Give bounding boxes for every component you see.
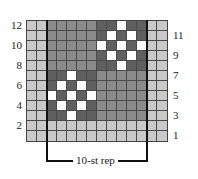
row-label-6: 6 [6,80,22,90]
chart-cell-light-gray [147,121,157,131]
chart-cell-light-gray [87,121,97,131]
chart-cell-medium-gray [77,61,87,71]
chart-cell-light-gray [127,121,137,131]
chart-cell-dark-gray [47,101,57,111]
chart-cell-dark-gray [107,41,117,51]
chart-cell-dark-gray [127,21,137,31]
chart-cell-medium-gray [97,71,107,81]
chart-cell-dark-gray [87,81,97,91]
chart-cell-light-gray [67,131,77,141]
chart-cell-light-gray [147,81,157,91]
row-label-3: 3 [173,110,179,120]
chart-cell-light-gray [27,21,37,31]
chart-cell-dark-gray [87,71,97,81]
chart-cell-medium-gray [87,31,97,41]
row-label-9: 9 [173,50,179,60]
chart-cell-light-gray [27,31,37,41]
row-label-7: 7 [173,70,179,80]
chart-cell-light-gray [147,31,157,41]
chart-cell-medium-gray [87,51,97,61]
chart-cell-medium-gray [87,41,97,51]
repeat-bracket-right-line [146,20,148,161]
chart-cell-light-gray [157,31,167,41]
chart-cell-white [107,31,117,41]
chart-cell-light-gray [47,121,57,131]
chart-cell-light-gray [97,121,107,131]
chart-cell-medium-gray [47,21,57,31]
chart-cell-medium-gray [67,41,77,51]
chart-cell-medium-gray [117,91,127,101]
chart-cell-medium-gray [107,91,117,101]
chart-cell-light-gray [147,61,157,71]
chart-cell-light-gray [87,131,97,141]
chart-cell-dark-gray [57,111,67,121]
chart-cell-light-gray [97,131,107,141]
chart-cell-light-gray [27,131,37,141]
row-label-2: 2 [6,120,22,130]
chart-cell-light-gray [27,51,37,61]
chart-cell-light-gray [147,91,157,101]
chart-cell-light-gray [27,121,37,131]
chart-cell-dark-gray [47,81,57,91]
chart-cell-medium-gray [77,31,87,41]
chart-cell-medium-gray [57,61,67,71]
chart-cell-dark-gray [97,51,107,61]
chart-cell-medium-gray [57,31,67,41]
chart-cell-light-gray [27,61,37,71]
chart-cell-medium-gray [117,101,127,111]
chart-cell-white [97,41,107,51]
chart-cell-medium-gray [117,81,127,91]
chart-cell-medium-gray [97,111,107,121]
chart-cell-medium-gray [127,81,137,91]
chart-cell-white [77,101,87,111]
chart-cell-light-gray [57,121,67,131]
chart-cell-light-gray [47,131,57,141]
chart-cell-white [117,21,127,31]
chart-cell-light-gray [157,61,167,71]
chart-cell-light-gray [147,71,157,81]
row-label-12: 12 [6,20,22,30]
chart-cell-medium-gray [47,61,57,71]
chart-cell-white [107,51,117,61]
chart-cell-medium-gray [127,101,137,111]
chart-cell-light-gray [157,91,167,101]
chart-cell-light-gray [127,131,137,141]
chart-cell-dark-gray [77,111,87,121]
chart-cell-white [47,91,57,101]
chart-cell-medium-gray [97,91,107,101]
chart-cell-medium-gray [57,51,67,61]
chart-cell-light-gray [57,131,67,141]
chart-cell-light-gray [27,71,37,81]
chart-cell-dark-gray [107,21,117,31]
chart-cell-white [57,101,67,111]
chart-cell-light-gray [157,21,167,31]
chart-cell-medium-gray [67,21,77,31]
chart-cell-medium-gray [127,91,137,101]
chart-cell-dark-gray [47,71,57,81]
chart-cell-dark-gray [97,21,107,31]
chart-cell-white [67,71,77,81]
row-label-11: 11 [173,30,184,40]
chart-cell-white [127,51,137,61]
chart-cell-medium-gray [47,31,57,41]
chart-cell-dark-gray [97,31,107,41]
chart-cell-medium-gray [87,21,97,31]
chart-cell-medium-gray [87,61,97,71]
chart-cell-dark-gray [97,61,107,71]
chart-cell-dark-gray [127,61,137,71]
chart-cell-dark-gray [77,91,87,101]
repeat-label: 10-st rep [73,154,118,166]
chart-cell-light-gray [27,81,37,91]
row-label-10: 10 [6,40,22,50]
chart-cell-white [127,31,137,41]
chart-cell-medium-gray [127,111,137,121]
chart-cell-dark-gray [47,111,57,121]
chart-cell-medium-gray [77,51,87,61]
chart-cell-medium-gray [57,21,67,31]
chart-cell-light-gray [147,41,157,51]
chart-cell-light-gray [27,41,37,51]
chart-cell-medium-gray [117,71,127,81]
chart-cell-medium-gray [127,71,137,81]
chart-cell-white [67,111,77,121]
chart-cell-medium-gray [77,41,87,51]
